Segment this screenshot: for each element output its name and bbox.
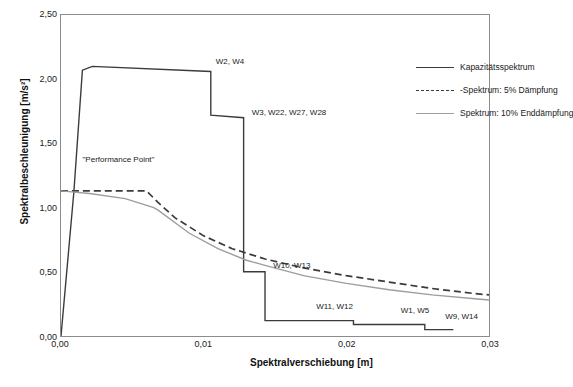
annotation-w3-w22-w27-w28: W3, W22, W27, W28 (252, 108, 327, 117)
legend-line-solid-dark-icon (416, 67, 454, 76)
annotation-w10-w13: W10, W13 (273, 261, 310, 270)
legend-label-0: Kapazitätsspektrum (460, 59, 535, 75)
legend-line-solid-gray-icon (416, 113, 454, 122)
y-tick-5: 2,50 (1, 9, 57, 19)
annotation-performance-point: "Performance Point" (83, 155, 155, 164)
x-axis-label: Spektralverschiebung [m] (250, 357, 373, 368)
legend-item-spektrum-10: Spektrum: 10% Enddämpfung (416, 105, 566, 128)
legend-label-2: Spektrum: 10% Enddämpfung (460, 105, 573, 121)
series-line-2 (61, 191, 489, 300)
legend-item-kapazitaetsspektrum: Kapazitätsspektrum (416, 59, 566, 82)
x-tick-2: 0,02 (338, 339, 356, 349)
x-tick-1: 0,01 (195, 339, 213, 349)
y-axis-label: Spektralbeschleunigung [m/s²] (19, 52, 30, 252)
annotation-w11-w12: W11, W12 (316, 302, 353, 311)
plot-frame: "Performance Point" W2, W4 W3, W22, W27,… (60, 14, 490, 337)
annotation-w2-w4: W2, W4 (216, 57, 244, 66)
x-tick-0: 0,00 (51, 339, 69, 349)
legend-label-1: -Spektrum: 5% Dämpfung (460, 82, 558, 98)
chart-legend: Kapazitätsspektrum -Spektrum: 5% Dämpfun… (416, 59, 566, 128)
legend-line-dashed-dark-icon (416, 90, 454, 99)
x-axis-ticks: 0,00 0,01 0,02 0,03 (60, 338, 490, 354)
series-line-0 (61, 66, 453, 336)
annotation-w9-w14: W9, W14 (445, 312, 478, 321)
annotation-w1-w5: W1, W5 (401, 306, 429, 315)
series-line-1 (61, 191, 489, 295)
legend-item-spektrum-5: -Spektrum: 5% Dämpfung (416, 82, 566, 105)
x-tick-3: 0,03 (481, 339, 499, 349)
y-tick-0: 0,00 (1, 332, 57, 342)
y-tick-1: 0,50 (1, 267, 57, 277)
